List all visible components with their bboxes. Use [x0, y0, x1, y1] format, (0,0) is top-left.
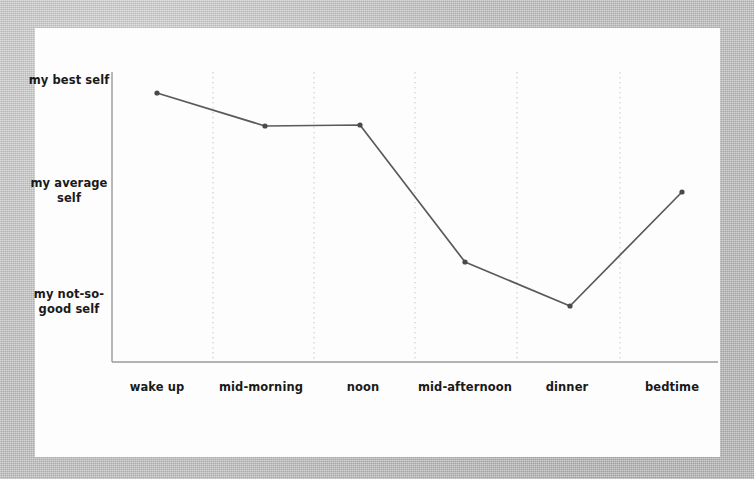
y-tick-label-3: my not-so-good self	[26, 287, 112, 317]
x-tick-label-mid-morning: mid-morning	[203, 380, 319, 395]
x-tick-label-noon: noon	[305, 380, 421, 395]
y-tick-label-2: my average self	[26, 176, 112, 206]
x-tick-label-mid-afternoon: mid-afternoon	[407, 380, 523, 395]
x-tick-label-dinner: dinner	[509, 380, 625, 395]
y-tick-label-1: my best self	[26, 73, 112, 88]
x-tick-label-bedtime: bedtime	[614, 380, 730, 395]
x-tick-label-wake-up: wake up	[99, 380, 215, 395]
